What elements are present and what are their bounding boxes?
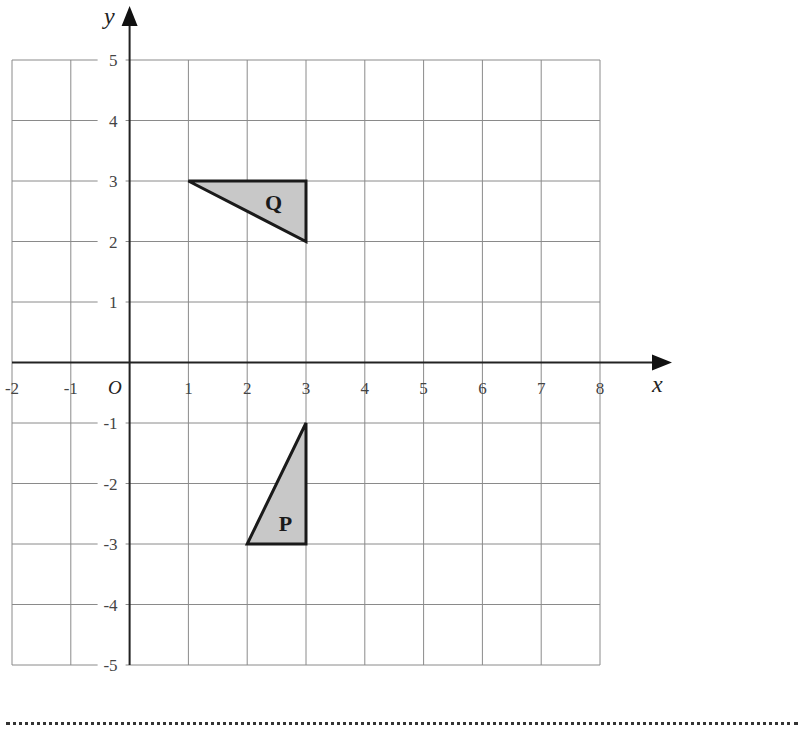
triangle-label-p: P <box>279 511 292 536</box>
x-tick-label: -2 <box>5 379 19 398</box>
y-tick-label: -2 <box>103 475 117 494</box>
x-axis-arrow-icon <box>652 355 672 371</box>
y-axis-arrow-icon <box>122 6 138 26</box>
x-tick-label: 8 <box>596 379 605 398</box>
y-tick-label: 1 <box>109 293 118 312</box>
triangle-label-q: Q <box>265 190 282 215</box>
y-tick-label: -3 <box>103 535 117 554</box>
origin-label: O <box>108 377 122 398</box>
y-tick-label: -1 <box>103 414 117 433</box>
x-tick-label: 7 <box>537 379 546 398</box>
x-tick-label: 2 <box>243 379 252 398</box>
tick-labels: xyO-2-11234567854321-1-2-3-4-5 <box>5 3 663 675</box>
answer-dotted-line <box>6 722 798 725</box>
y-tick-label: 3 <box>109 172 118 191</box>
x-axis-label: x <box>651 371 663 397</box>
y-tick-label: 2 <box>109 233 118 252</box>
x-tick-label: 4 <box>361 379 370 398</box>
x-tick-label: 6 <box>478 379 487 398</box>
x-tick-label: 1 <box>184 379 193 398</box>
y-tick-label: -5 <box>103 656 117 675</box>
axes <box>12 6 672 665</box>
y-axis-label: y <box>102 3 115 29</box>
x-tick-label: 5 <box>419 379 428 398</box>
x-tick-label: -1 <box>64 379 78 398</box>
y-tick-label: -4 <box>103 596 118 615</box>
coordinate-grid-chart: xyO-2-11234567854321-1-2-3-4-5 QP <box>0 0 802 733</box>
x-tick-label: 3 <box>302 379 311 398</box>
y-tick-label: 5 <box>109 51 118 70</box>
y-tick-label: 4 <box>109 112 118 131</box>
